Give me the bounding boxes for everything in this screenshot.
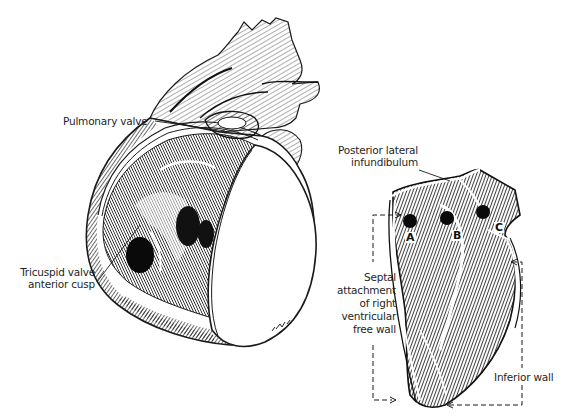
point-a-label: A [405,232,416,243]
infundibulum-leader [419,170,450,181]
pulmonary-valve-label: Pulmonary valve [63,115,148,127]
point-b-label: B [452,230,462,241]
inferior-wall-label: Inferior wall [494,371,553,383]
septal-label-line5: free wall [306,323,396,336]
illustration-canvas [0,0,570,419]
septal-label-line1: Septal [306,271,396,284]
infundibulum-label: Posterior lateral infundibulum [310,144,418,168]
septal-label-line3: of right [306,297,396,310]
septal-attachment-label: Septal attachment of right ventricular f… [306,271,396,336]
infundibulum-label-line1: Posterior lateral [310,144,418,156]
tricuspid-label-line1: Tricuspid valve [0,266,95,278]
point-b-marker [440,211,454,225]
septal-label-line4: ventricular [306,310,396,323]
infundibulum-label-line2: infundibulum [310,156,418,168]
point-c-marker [476,205,490,219]
point-a-marker [403,214,417,228]
tricuspid-label-line2: anterior cusp [0,278,95,290]
left-heart-drawing [86,18,319,346]
point-c-label: C [494,222,504,233]
septal-label-line2: attachment [306,284,396,297]
tricuspid-valve-label: Tricuspid valve anterior cusp [0,266,95,290]
